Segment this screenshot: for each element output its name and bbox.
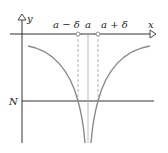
a-minus-delta-point-icon xyxy=(76,32,80,36)
y-axis-label: y xyxy=(26,13,33,24)
limit-diagram: y x N a − δ a a + δ xyxy=(0,0,168,153)
x-axis-label: x xyxy=(148,19,154,30)
a-plus-delta-point-icon xyxy=(96,32,100,36)
left-curve xyxy=(28,46,85,143)
n-label: N xyxy=(8,96,19,107)
right-curve xyxy=(91,46,150,143)
y-axis-arrow-icon xyxy=(18,14,26,20)
a-minus-delta-label: a − δ xyxy=(53,19,80,30)
a-label: a xyxy=(85,19,91,30)
x-axis-arrow-icon xyxy=(150,30,156,38)
a-plus-delta-label: a + δ xyxy=(101,19,128,30)
